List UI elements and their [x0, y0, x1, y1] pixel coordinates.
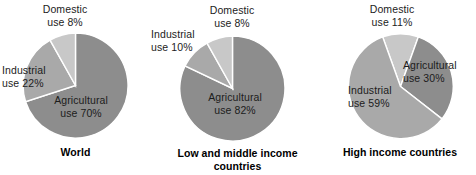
- pie-chart-high-income: Domestic use 11% Agricultural use 30% In…: [320, 0, 476, 175]
- label-domestic-low-middle-income: Domestic use 8%: [189, 4, 275, 29]
- label-agricultural-low-middle-income-line2: use 82%: [193, 104, 277, 117]
- label-industrial-low-middle-income-line2: use 10%: [151, 41, 221, 54]
- label-agricultural-high-income-line2: use 30%: [403, 72, 475, 85]
- water-use-pie-chart-figure: Domestic use 8% Industrial use 22% Agric…: [0, 0, 476, 175]
- label-industrial-world-line1: Industrial: [2, 64, 46, 76]
- caption-world-line1: World: [61, 146, 91, 158]
- pie-chart-low-middle-income: Domestic use 8% Industrial use 10% Agric…: [155, 0, 320, 175]
- label-agricultural-world-line1: Agricultural: [54, 94, 108, 106]
- caption-high-income: High income countries: [330, 146, 470, 159]
- label-domestic-world-line2: use 8%: [22, 16, 108, 29]
- caption-low-middle-income: Low and middle income countries: [160, 147, 315, 173]
- label-industrial-low-middle-income-line1: Industrial: [151, 28, 195, 40]
- label-domestic-low-middle-income-line1: Domestic: [210, 4, 255, 16]
- caption-low-middle-income-line1: Low and middle income: [177, 147, 297, 159]
- label-domestic-high-income: Domestic use 11%: [349, 3, 435, 28]
- label-agricultural-world: Agricultural use 70%: [39, 94, 123, 119]
- label-agricultural-world-line2: use 70%: [39, 107, 123, 120]
- label-domestic-world: Domestic use 8%: [22, 3, 108, 28]
- label-agricultural-high-income: Agricultural use 30%: [403, 59, 475, 84]
- label-industrial-high-income: Industrial use 59%: [348, 84, 418, 109]
- caption-world: World: [13, 146, 138, 159]
- label-industrial-world-line2: use 22%: [2, 77, 70, 90]
- caption-high-income-line1: High income countries: [343, 146, 457, 158]
- label-domestic-world-line1: Domestic: [43, 3, 88, 15]
- label-agricultural-low-middle-income-line1: Agricultural: [208, 91, 262, 103]
- label-domestic-high-income-line2: use 11%: [349, 16, 435, 29]
- label-industrial-high-income-line2: use 59%: [348, 97, 418, 110]
- pie-chart-world: Domestic use 8% Industrial use 22% Agric…: [0, 0, 155, 175]
- label-industrial-world: Industrial use 22%: [2, 64, 70, 89]
- label-agricultural-low-middle-income: Agricultural use 82%: [193, 91, 277, 116]
- label-industrial-low-middle-income: Industrial use 10%: [151, 28, 221, 53]
- label-domestic-high-income-line1: Domestic: [370, 3, 415, 15]
- label-industrial-high-income-line1: Industrial: [348, 84, 392, 96]
- caption-low-middle-income-line2: countries: [214, 160, 262, 172]
- label-agricultural-high-income-line1: Agricultural: [403, 59, 457, 71]
